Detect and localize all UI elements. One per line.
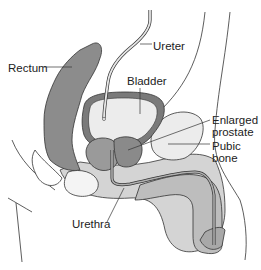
ureter-orifice [103,118,106,121]
label-prostate-line2: prostate [212,126,258,138]
prostate-right-lobe [114,137,142,167]
label-prostate-line1: Enlarged [212,114,258,126]
label-pubic-line1: Pubic [212,140,241,152]
label-pubic-line2: bone [212,152,241,164]
label-pubic-bone: Pubic bone [212,140,241,164]
label-urethra: Urethra [72,218,110,230]
thigh-outline [8,198,32,212]
leg-outline [16,203,22,262]
label-bladder: Bladder [127,75,167,87]
anatomy-diagram: Rectum Ureter Bladder Enlarged prostate … [0,0,261,270]
label-ureter: Ureter [153,40,185,52]
label-enlarged-prostate: Enlarged prostate [212,114,258,138]
label-rectum: Rectum [8,62,48,74]
